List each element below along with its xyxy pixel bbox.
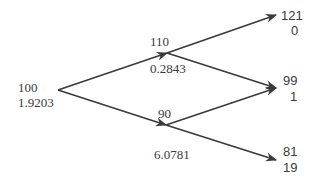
binomial-tree-diagram: 100 1.9203 110 0.2843 90 6.0781 121 0 99… [0,0,316,186]
up-option-value: 0.2843 [150,62,186,75]
root-value: 100 [18,81,38,94]
edge-down-du [166,88,276,125]
terminal-ud-payoff: 1 [290,90,297,103]
terminal-dd-payoff: 19 [283,161,297,174]
root-option-value: 1.9203 [18,96,54,109]
terminal-uu-payoff: 0 [291,24,298,37]
edge-up-uu [167,15,276,53]
down-value: 90 [158,107,171,120]
down-option-value: 6.0781 [154,148,190,161]
up-value: 110 [150,35,169,48]
edge-root-down [58,90,166,125]
terminal-uu-value: 121 [281,9,303,22]
terminal-dd-value: 81 [283,145,297,158]
terminal-ud-value: 99 [283,74,297,87]
